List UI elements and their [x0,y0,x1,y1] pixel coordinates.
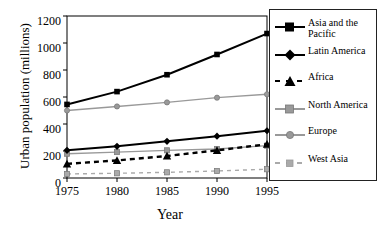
series-europe [64,92,269,113]
legend-item-north-america[interactable]: North America [274,100,376,113]
data-point [164,100,169,105]
series-west-asia [64,167,269,177]
data-point [114,104,119,109]
legend-label: Latin America [306,46,365,57]
data-point [64,102,70,108]
legend-item-west-asia[interactable]: West Asia [274,154,376,167]
legend-label: Europe [306,126,337,137]
series-line [67,34,267,105]
data-point [164,72,170,78]
legend: Asia and thePacific Latin America Africa [269,9,377,181]
line-chart: Urban population (millions) 1200 1000 80… [0,0,379,235]
legend-label-line2: Pacific [308,28,336,39]
legend-label: Africa [306,72,334,83]
legend-label-line1: Asia and the [308,17,358,28]
legend-key-west-asia [274,155,306,167]
legend-item-latin-america[interactable]: Latin America [274,46,376,59]
data-point [214,168,219,173]
data-point [114,149,119,154]
x-axis-ticks [67,178,267,182]
data-point [214,95,219,100]
legend-label: Asia and thePacific [306,18,358,39]
legend-key-latin-america [274,47,306,59]
legend-label: West Asia [306,154,348,165]
legend-item-europe[interactable]: Europe [274,126,376,139]
data-point [64,108,69,113]
legend-item-africa[interactable]: Africa [274,72,376,85]
data-point [213,133,220,140]
legend-key-north-america [274,101,306,113]
data-series-layer [63,31,271,177]
legend-label: North America [306,100,368,111]
data-point [64,171,69,176]
data-point [214,52,220,58]
data-point [114,89,120,95]
legend-item-asia-and-the-pacific[interactable]: Asia and thePacific [274,18,376,39]
data-point [164,170,169,175]
legend-key-africa [274,73,306,85]
data-point [114,171,119,176]
legend-key-europe [274,127,306,139]
data-point [113,143,120,150]
data-point [163,138,170,145]
legend-key-asia-and-the-pacific [274,19,306,31]
